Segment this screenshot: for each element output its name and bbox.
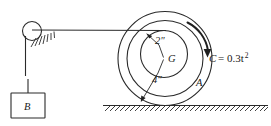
ground-hatching bbox=[105, 106, 268, 111]
inner-radius-label: 2" bbox=[155, 35, 165, 46]
couple-symbol-label: C bbox=[209, 52, 217, 64]
cord-vertical bbox=[26, 36, 29, 93]
block-label: B bbox=[24, 101, 31, 112]
wheel-outer-rim-circle bbox=[118, 12, 212, 106]
figure-canvas: 2" 4" G A B C = 0.3t2 bbox=[0, 0, 271, 126]
cord-horizontal bbox=[32, 30, 166, 31]
couple-equation-text: = 0.3t bbox=[218, 52, 244, 64]
couple-equation-label: = 0.3t2 bbox=[218, 51, 249, 64]
wheel-label: A bbox=[195, 77, 203, 88]
pulley-assembly bbox=[23, 22, 55, 48]
couple-exponent-text: 2 bbox=[245, 51, 249, 60]
pulley-support-hatching bbox=[31, 32, 55, 48]
couple-arc bbox=[188, 23, 209, 51]
cord-line-horizontal bbox=[32, 30, 166, 31]
outer-radius-label: 4" bbox=[152, 74, 162, 85]
center-of-mass-label: G bbox=[168, 53, 176, 64]
wheel-assembly bbox=[118, 12, 212, 106]
wheel-outer-radius-circle bbox=[127, 21, 203, 97]
mechanics-figure: 2" 4" G A B C = 0.3t2 bbox=[0, 0, 271, 126]
ground-surface bbox=[103, 106, 268, 112]
